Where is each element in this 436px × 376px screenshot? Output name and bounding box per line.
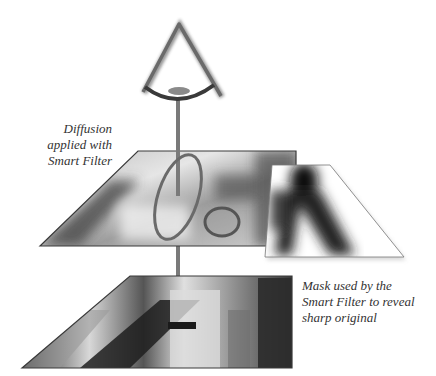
diffusion-caption-line-1: Diffusion <box>2 121 112 137</box>
small-lens-ring <box>205 208 239 236</box>
smart-filter-mask <box>265 163 406 260</box>
eye-viewpoint-icon <box>143 24 222 99</box>
diffusion-caption: Diffusion applied with Smart Filter <box>2 121 112 169</box>
diffusion-caption-line-2: applied with <box>2 137 112 153</box>
mask-caption: Mask used by the Smart Filter to reveal … <box>302 278 434 326</box>
mask-caption-line-2: Smart Filter to reveal <box>302 294 434 310</box>
sight-line-upper <box>176 100 180 196</box>
sharp-original-photo-layer <box>22 276 292 368</box>
mask-caption-line-3: sharp original <box>302 310 434 326</box>
mask-caption-line-1: Mask used by the <box>302 278 434 294</box>
diffusion-caption-line-3: Smart Filter <box>2 153 112 169</box>
